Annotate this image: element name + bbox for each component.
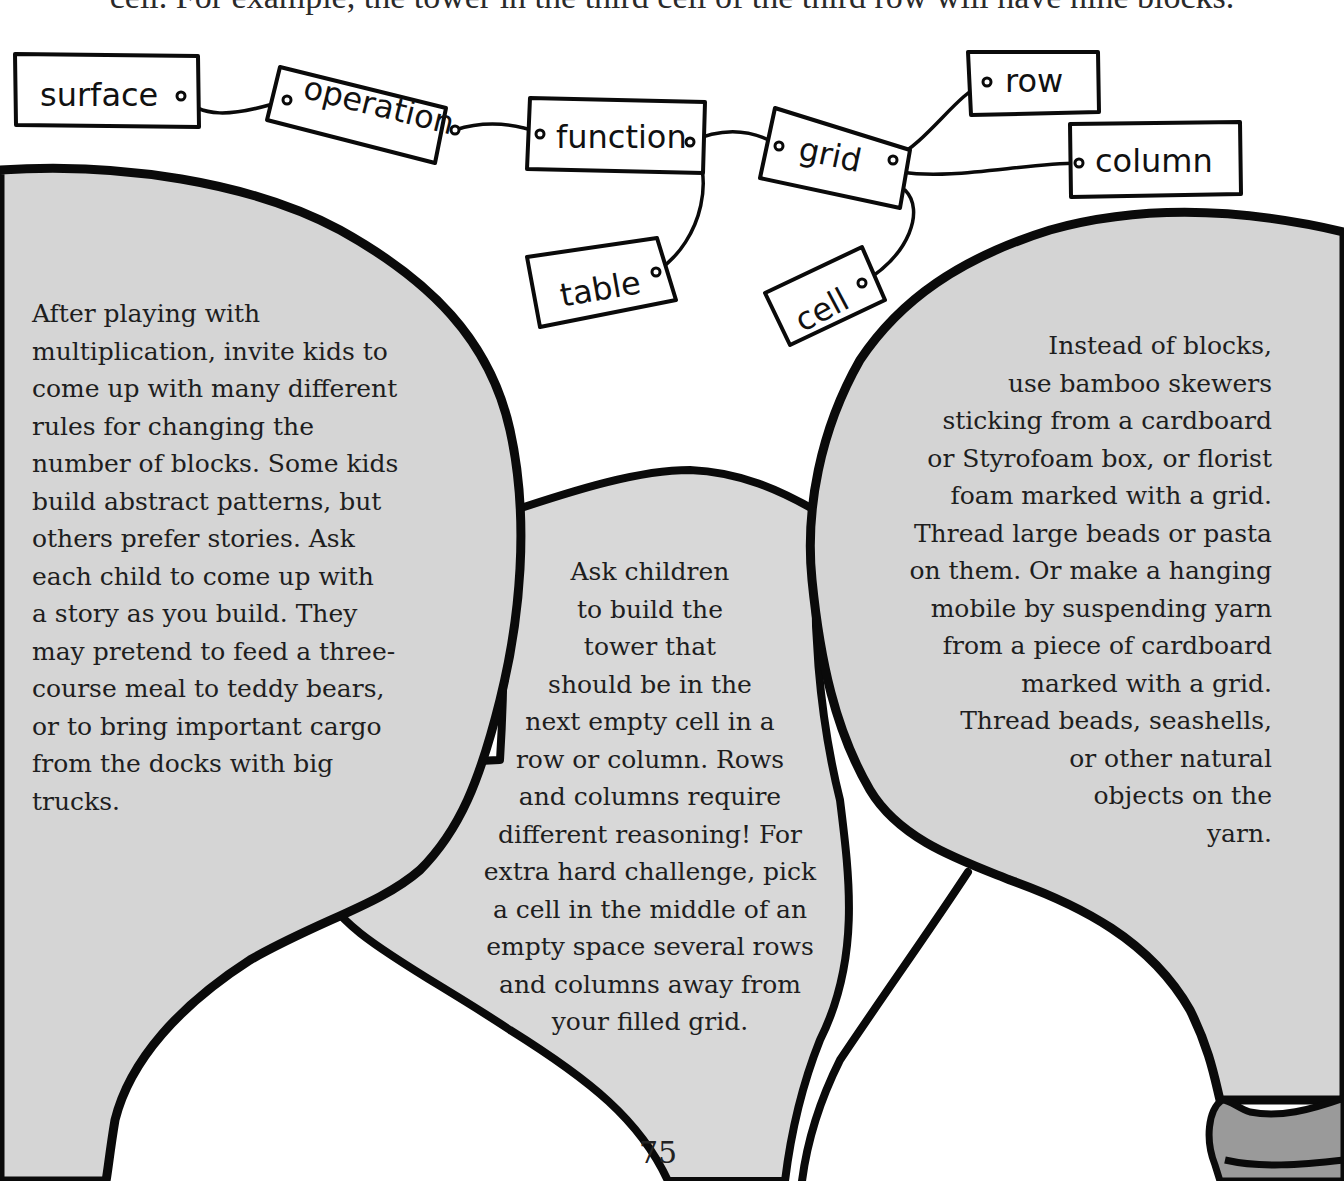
text-line: different reasoning! For — [440, 816, 860, 854]
text-line: others prefer stories. Ask — [32, 520, 398, 558]
text-line: multiplication, invite kids to — [32, 333, 398, 371]
text-line: Ask children — [440, 553, 860, 591]
text-line: foam marked with a grid. — [909, 477, 1272, 515]
text-line: a cell in the middle of an — [440, 891, 860, 929]
text-line: may pretend to feed a three- — [32, 633, 398, 671]
text-line: or Styrofoam box, or florist — [909, 440, 1272, 478]
text-line: each child to come up with — [32, 558, 398, 596]
text-line: marked with a grid. — [909, 665, 1272, 703]
text-line: come up with many different — [32, 370, 398, 408]
text-line: Instead of blocks, — [909, 327, 1272, 365]
text-line: tower that — [440, 628, 860, 666]
right-balloon-text: Instead of blocks, use bamboo skewers st… — [909, 327, 1272, 852]
text-line: next empty cell in a — [440, 703, 860, 741]
center-balloon-text: Ask children to build the tower that sho… — [440, 553, 860, 1041]
text-line: row or column. Rows — [440, 741, 860, 779]
text-line: and columns require — [440, 778, 860, 816]
connector-grid-column — [902, 163, 1078, 174]
text-line: extra hard challenge, pick — [440, 853, 860, 891]
text-line: empty space several rows — [440, 928, 860, 966]
text-line: mobile by suspending yarn — [909, 590, 1272, 628]
text-line: should be in the — [440, 666, 860, 704]
node-label-surface: surface — [40, 76, 158, 114]
text-line: from the docks with big — [32, 745, 398, 783]
node-label-function: function — [556, 118, 687, 156]
text-line: or other natural — [909, 740, 1272, 778]
text-line: use bamboo skewers — [909, 365, 1272, 403]
text-line: build abstract patterns, but — [32, 483, 398, 521]
text-line: rules for changing the — [32, 408, 398, 446]
text-line: number of blocks. Some kids — [32, 445, 398, 483]
text-line: Thread beads, seashells, — [909, 702, 1272, 740]
text-line: After playing with — [32, 295, 398, 333]
text-line: Thread large beads or pasta — [909, 515, 1272, 553]
text-line: from a piece of cardboard — [909, 627, 1272, 665]
text-line: your filled grid. — [440, 1003, 860, 1041]
text-line: sticking from a cardboard — [909, 402, 1272, 440]
text-line: to build the — [440, 591, 860, 629]
node-label-column: column — [1095, 142, 1213, 180]
text-line: course meal to teddy bears, — [32, 670, 398, 708]
text-line: objects on the — [909, 777, 1272, 815]
text-line: a story as you build. They — [32, 595, 398, 633]
text-line: yarn. — [909, 815, 1272, 853]
node-label-row: row — [1005, 62, 1063, 100]
text-line: and columns away from — [440, 966, 860, 1004]
left-balloon-text: After playing with multiplication, invit… — [32, 295, 398, 820]
text-line: on them. Or make a hanging — [909, 552, 1272, 590]
page-number: 75 — [618, 1135, 698, 1170]
text-line: or to bring important cargo — [32, 708, 398, 746]
text-line: trucks. — [32, 783, 398, 821]
